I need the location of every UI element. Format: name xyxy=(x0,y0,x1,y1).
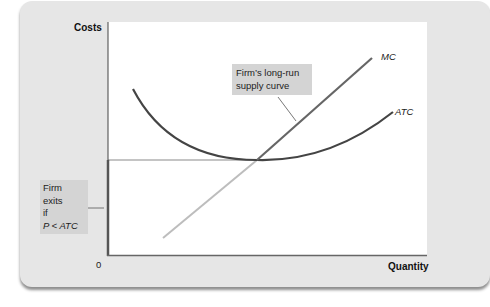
exit-note-line2: exits xyxy=(43,195,85,208)
atc-curve xyxy=(133,89,393,160)
supply-note-line1: Firm’s long-run xyxy=(236,67,308,80)
exit-note: Firm exits if P < ATC xyxy=(40,180,88,234)
exit-note-line3: if xyxy=(43,207,85,220)
mc-curve-lower xyxy=(163,160,257,238)
exit-note-line1: Firm xyxy=(43,182,85,195)
supply-note-pointer xyxy=(278,97,296,121)
exit-note-line4: P < ATC xyxy=(43,220,85,233)
y-axis-label: Costs xyxy=(74,22,102,33)
supply-curve-note: Firm’s long-run supply curve xyxy=(232,64,312,95)
x-axis-label: Quantity xyxy=(388,261,429,272)
supply-note-line2: supply curve xyxy=(236,80,308,93)
atc-label: ATC xyxy=(395,106,413,117)
mc-label: MC xyxy=(381,51,396,62)
origin-label: 0 xyxy=(96,259,101,270)
